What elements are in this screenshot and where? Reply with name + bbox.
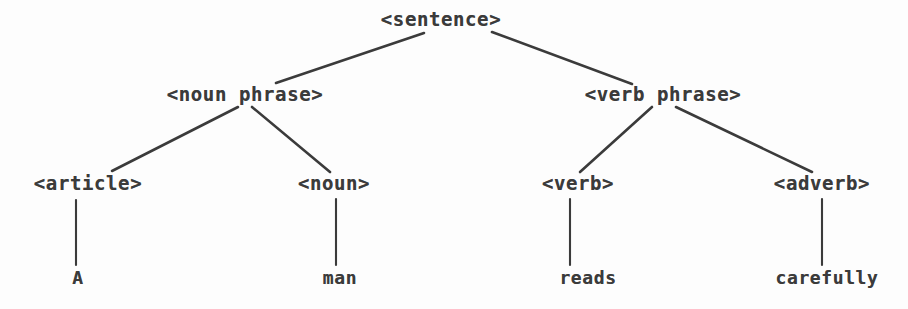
edge-verb-phrase-to-verb	[580, 107, 652, 172]
edge-sentence-to-noun-phrase	[276, 33, 424, 83]
leaf-noun-word: man	[323, 267, 357, 289]
edge-verb-phrase-to-adverb	[676, 107, 812, 172]
leaf-article-word: A	[72, 267, 83, 289]
node-noun-phrase: <noun phrase>	[167, 83, 324, 105]
edge-noun-phrase-to-article	[112, 107, 238, 171]
parse-tree-figure: <sentence> <noun phrase> <verb phrase> <…	[0, 0, 908, 309]
edge-noun-phrase-to-noun	[252, 107, 330, 172]
node-sentence: <sentence>	[381, 8, 501, 30]
node-verb-phrase: <verb phrase>	[585, 83, 742, 105]
node-adverb: <adverb>	[774, 172, 870, 194]
leaf-verb-word: reads	[559, 267, 616, 289]
leaf-adverb-word: carefully	[776, 267, 879, 289]
node-verb: <verb>	[542, 172, 614, 194]
edge-sentence-to-verb-phrase	[492, 32, 632, 84]
node-article: <article>	[34, 172, 142, 194]
tree-edge-layer	[0, 0, 908, 309]
node-noun: <noun>	[298, 172, 370, 194]
